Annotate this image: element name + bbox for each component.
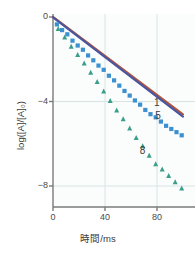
- data-point-square: [117, 84, 121, 88]
- y-tick-label: −8: [30, 181, 48, 190]
- data-point-square: [112, 78, 116, 82]
- data-point-square: [107, 74, 111, 78]
- data-point-square: [128, 93, 132, 97]
- data-point-square: [96, 63, 100, 67]
- series-annotation-1: 1: [154, 98, 160, 108]
- data-point-square: [70, 39, 74, 43]
- data-point-square: [180, 133, 184, 137]
- data-point-square: [60, 28, 64, 32]
- data-point-square: [148, 112, 152, 116]
- data-point-square: [138, 103, 142, 107]
- y-tick-label: 0: [30, 12, 48, 21]
- x-tick-label: 0: [41, 213, 65, 222]
- x-tick-label: 40: [93, 213, 117, 222]
- data-point-square: [91, 58, 95, 62]
- chart-figure: 0−4−804080 158 時間/ms log([A]/[A]₀): [0, 0, 196, 258]
- x-axis-title: 時間/ms: [0, 234, 196, 244]
- series-annotation-8: 8: [140, 146, 146, 156]
- data-point-square: [65, 32, 69, 36]
- y-axis-title: log([A]/[A]₀): [16, 101, 26, 150]
- data-point-square: [102, 68, 106, 72]
- data-point-square: [122, 89, 126, 93]
- data-point-square: [133, 98, 137, 102]
- data-point-square: [169, 127, 173, 131]
- y-tick-label: −4: [30, 97, 48, 106]
- x-tick-label: 80: [145, 213, 169, 222]
- data-point-square: [86, 53, 90, 57]
- data-point-square: [81, 48, 85, 52]
- series-annotation-5: 5: [155, 111, 161, 121]
- data-point-square: [174, 130, 178, 134]
- data-point-square: [143, 108, 147, 112]
- data-point-square: [55, 22, 59, 26]
- data-point-square: [164, 124, 168, 128]
- data-point-square: [76, 43, 80, 47]
